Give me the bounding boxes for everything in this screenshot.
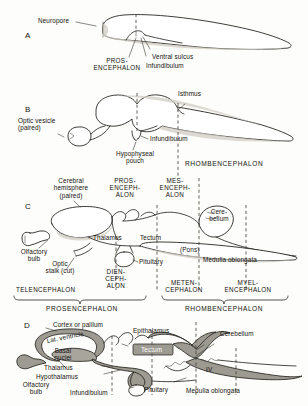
figure-root: A Neuropore PROS- ENCEPHALON Ventral sul… — [0, 0, 308, 406]
label-medulla-oblongata-d: Medulla oblongata — [186, 387, 240, 394]
label-epithalamus-d: Epithalamus — [133, 327, 169, 334]
label-olfactory-bulb-d: Olfactory bulb — [12, 381, 60, 396]
label-pituitary-d: Pituitary — [144, 386, 168, 393]
label-tectum-d: Tectum — [141, 346, 162, 353]
label-infundibulum-d: Infundibulum — [70, 389, 108, 396]
label-basal-nuclei-d: Basal nuclei — [46, 347, 80, 362]
label-cerebellum-d: Cerebellum — [220, 330, 254, 337]
label-cortex-or-pallium-d: Cortex or pallium — [53, 321, 103, 328]
label-thalamus-d: Thalamus — [44, 364, 73, 371]
label-hypothalamus-d: Hypothalamus — [36, 373, 78, 380]
label-fourth-ventricle-d: IV — [206, 366, 212, 373]
